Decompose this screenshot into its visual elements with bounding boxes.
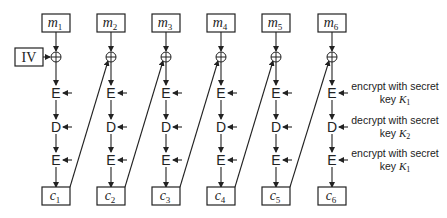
stage-label-line2: key K1 xyxy=(380,93,411,107)
xor-icon xyxy=(216,52,226,62)
triple-des-cbc-diagram: IV m1EDEc1m2EDEc2m3EDEc3m4EDEc4m5EDEc5m6… xyxy=(0,0,447,218)
xor-icon xyxy=(327,52,337,62)
ciphertext-box: c6 xyxy=(318,187,346,205)
block-column-1: m1EDEc1 xyxy=(42,14,108,205)
plaintext-box: m3 xyxy=(152,14,180,32)
block-column-5: m5EDEc5 xyxy=(262,14,329,205)
ciphertext-box: c1 xyxy=(42,187,70,205)
stage-label-line1: encrypt with secret xyxy=(351,147,439,159)
iv-box: IV xyxy=(15,48,43,66)
ciphertext-box: c3 xyxy=(152,187,180,205)
decrypt-op: D xyxy=(216,119,226,135)
encrypt-op: E xyxy=(161,152,170,168)
encrypt-op: E xyxy=(106,152,115,168)
block-column-4: m4EDEc4 xyxy=(207,14,273,205)
chain-line xyxy=(125,61,163,187)
encrypt-op: E xyxy=(161,85,170,101)
xor-icon xyxy=(271,52,281,62)
decrypt-op: D xyxy=(161,119,171,135)
ciphertext-box: c4 xyxy=(207,187,235,205)
chain-line xyxy=(290,61,329,187)
stage-label-line2: key K1 xyxy=(380,160,411,174)
plaintext-box: m5 xyxy=(262,14,290,32)
encrypt-op: E xyxy=(271,152,280,168)
stage-label-line2: key K2 xyxy=(380,127,411,141)
ciphertext-box: c5 xyxy=(262,187,290,205)
encrypt-op: E xyxy=(51,85,60,101)
chain-line xyxy=(180,61,218,187)
xor-icon xyxy=(106,52,116,62)
decrypt-op: D xyxy=(106,119,116,135)
block-column-6: m6EDEc6 xyxy=(318,14,348,205)
xor-icon xyxy=(161,52,171,62)
stage-label-2: decrypt with secretkey K2 xyxy=(351,114,439,141)
block-column-3: m3EDEc3 xyxy=(152,14,218,205)
stage-label-3: encrypt with secretkey K1 xyxy=(351,147,439,174)
encrypt-op: E xyxy=(216,85,225,101)
decrypt-op: D xyxy=(51,119,61,135)
plaintext-box: m4 xyxy=(207,14,235,32)
decrypt-op: D xyxy=(271,119,281,135)
chain-line xyxy=(235,61,273,187)
iv-label: IV xyxy=(22,50,37,65)
encrypt-op: E xyxy=(327,152,336,168)
block-column-2: m2EDEc2 xyxy=(97,14,163,205)
plaintext-box: m6 xyxy=(318,14,346,32)
stage-label-line1: decrypt with secret xyxy=(351,114,439,126)
stage-label-line1: encrypt with secret xyxy=(351,80,439,92)
ciphertext-box: c2 xyxy=(97,187,125,205)
encrypt-op: E xyxy=(327,85,336,101)
xor-icon xyxy=(51,52,61,62)
plaintext-box: m1 xyxy=(42,14,70,32)
encrypt-op: E xyxy=(106,85,115,101)
decrypt-op: D xyxy=(327,119,337,135)
encrypt-op: E xyxy=(51,152,60,168)
chain-line xyxy=(70,61,108,187)
encrypt-op: E xyxy=(271,85,280,101)
plaintext-box: m2 xyxy=(97,14,125,32)
stage-label-1: encrypt with secretkey K1 xyxy=(351,80,439,107)
encrypt-op: E xyxy=(216,152,225,168)
